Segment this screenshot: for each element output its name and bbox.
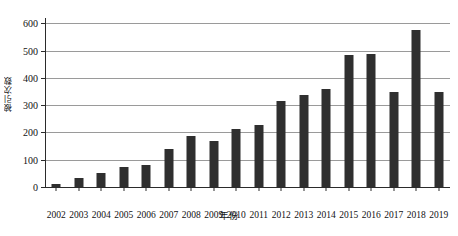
bar-2005[interactable]: [119, 167, 128, 187]
x-tick-mark: [438, 187, 439, 191]
bar-slot: [180, 18, 203, 187]
x-tick-mark: [258, 187, 259, 191]
y-tick-label: 0: [33, 182, 38, 193]
bar-slot: [203, 18, 226, 187]
x-tick-mark: [371, 187, 372, 191]
bar-slot: [45, 18, 68, 187]
bar-2004[interactable]: [97, 173, 106, 187]
y-tick-label: 600: [23, 18, 38, 29]
bars-group: [45, 18, 450, 187]
x-axis-title-text: 年份: [219, 210, 239, 221]
y-tick-label: 100: [23, 154, 38, 165]
x-tick-mark: [303, 187, 304, 191]
bar-slot: [338, 18, 361, 187]
bar-chart-figure: 被引次数 0100200300400500600 200220032004200…: [0, 0, 458, 236]
bar-slot: [135, 18, 158, 187]
x-tick-mark: [168, 187, 169, 191]
bar-slot: [315, 18, 338, 187]
bar-slot: [383, 18, 406, 187]
bar-slot: [248, 18, 271, 187]
y-tick-label: 400: [23, 72, 38, 83]
bar-2018[interactable]: [412, 30, 421, 187]
bar-2013[interactable]: [299, 95, 308, 187]
plot-area: 0100200300400500600 20022003200420052006…: [45, 18, 450, 188]
bar-slot: [68, 18, 91, 187]
bar-slot: [360, 18, 383, 187]
bar-2014[interactable]: [322, 89, 331, 187]
y-tick-label: 300: [23, 100, 38, 111]
bar-2016[interactable]: [367, 54, 376, 187]
x-axis-title: 年份: [0, 208, 458, 222]
bar-2010[interactable]: [232, 129, 241, 187]
x-tick-mark: [101, 187, 102, 191]
bar-2011[interactable]: [254, 125, 263, 187]
x-tick-mark: [326, 187, 327, 191]
y-tick-label: 200: [23, 127, 38, 138]
bar-2008[interactable]: [187, 136, 196, 187]
bar-2012[interactable]: [277, 101, 286, 187]
bar-2003[interactable]: [74, 178, 83, 187]
x-tick-mark: [146, 187, 147, 191]
x-tick-mark: [213, 187, 214, 191]
bar-2009[interactable]: [209, 141, 218, 187]
x-tick-mark: [191, 187, 192, 191]
bar-2015[interactable]: [344, 55, 353, 187]
x-tick-mark: [123, 187, 124, 191]
bar-2007[interactable]: [164, 149, 173, 187]
bar-slot: [293, 18, 316, 187]
bar-slot: [405, 18, 428, 187]
x-tick-mark: [78, 187, 79, 191]
y-axis-title-text: 被引次数: [3, 76, 15, 112]
bar-slot: [113, 18, 136, 187]
x-tick-mark: [236, 187, 237, 191]
x-tick-mark: [416, 187, 417, 191]
bar-2019[interactable]: [434, 92, 443, 187]
bar-slot: [225, 18, 248, 187]
x-tick-mark: [393, 187, 394, 191]
bar-2017[interactable]: [389, 92, 398, 187]
x-tick-mark: [348, 187, 349, 191]
x-tick-mark: [281, 187, 282, 191]
y-axis-title: 被引次数: [2, 0, 16, 188]
bar-slot: [270, 18, 293, 187]
bar-slot: [90, 18, 113, 187]
bar-2006[interactable]: [142, 165, 151, 187]
x-tick-mark: [56, 187, 57, 191]
x-axis-line: [45, 187, 450, 188]
bar-slot: [158, 18, 181, 187]
bar-slot: [428, 18, 451, 187]
y-tick-label: 500: [23, 45, 38, 56]
